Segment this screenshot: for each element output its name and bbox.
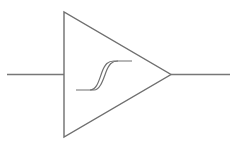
hysteresis-icon: [76, 61, 132, 90]
schmitt-trigger-diagram: [0, 0, 245, 146]
buffer-triangle: [64, 12, 171, 137]
